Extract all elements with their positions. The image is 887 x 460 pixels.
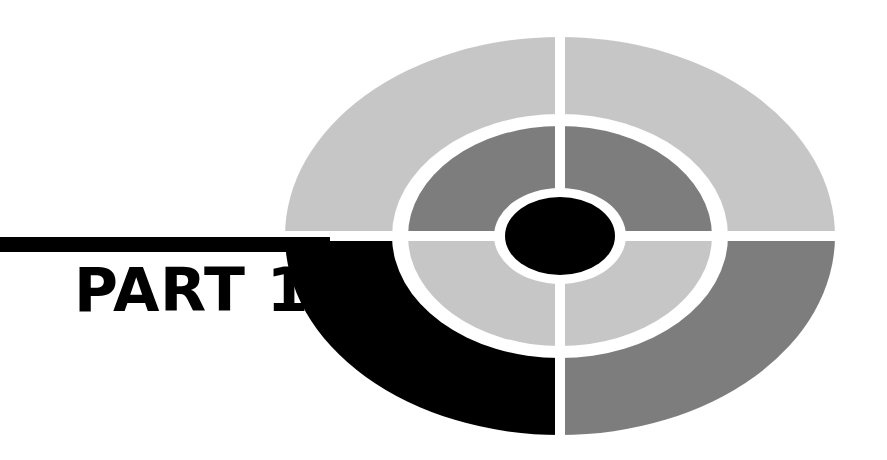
part-divider-page: PART 1: [0, 0, 887, 460]
horizontal-rule-bar: [0, 237, 330, 252]
inner-ring: [0, 0, 887, 460]
inner-quadrant-top-right: [560, 0, 887, 236]
inner-quadrant-bottom-right: [560, 236, 887, 460]
center-ellipse: [505, 197, 615, 275]
page-title: PART 1: [74, 258, 309, 322]
target-graphic: [0, 0, 887, 460]
inner-quadrant-top-left: [0, 0, 560, 236]
